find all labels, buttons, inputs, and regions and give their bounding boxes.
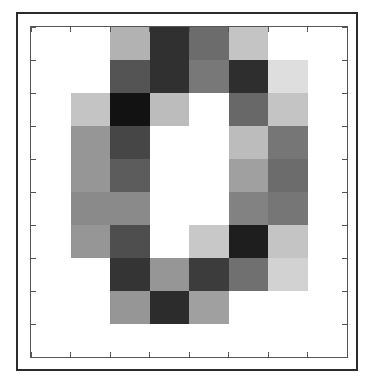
heatmap-cell	[110, 126, 150, 159]
heatmap-cell	[71, 291, 111, 324]
heatmap-cell	[150, 60, 190, 93]
heatmap-cell	[110, 225, 150, 258]
heatmap-cell	[189, 93, 229, 126]
heatmap-cell	[31, 159, 71, 192]
heatmap-cell	[110, 291, 150, 324]
heatmap-cell	[268, 324, 308, 357]
heatmap-cell	[268, 291, 308, 324]
heatmap-cell	[308, 27, 348, 60]
heatmap-cell	[150, 159, 190, 192]
heatmap-cell	[31, 258, 71, 291]
heatmap-cell	[189, 27, 229, 60]
heatmap-cell	[308, 126, 348, 159]
heatmap-cell	[31, 126, 71, 159]
heatmap-cell	[308, 192, 348, 225]
heatmap-cell	[308, 159, 348, 192]
heatmap-cell	[308, 93, 348, 126]
heatmap-cell	[229, 126, 269, 159]
heatmap-cell	[229, 324, 269, 357]
heatmap-cell	[268, 159, 308, 192]
heatmap-cell	[110, 60, 150, 93]
heatmap-cell	[71, 159, 111, 192]
heatmap-cell	[71, 324, 111, 357]
heatmap-cell	[150, 192, 190, 225]
heatmap-cell	[189, 60, 229, 93]
heatmap-cell	[150, 27, 190, 60]
heatmap-cell	[268, 258, 308, 291]
heatmap-cell	[268, 27, 308, 60]
heatmap-cell	[308, 258, 348, 291]
heatmap-cell	[31, 192, 71, 225]
heatmap-cell	[110, 27, 150, 60]
heatmap-cell	[189, 225, 229, 258]
heatmap-cell	[110, 258, 150, 291]
heatmap-cell	[31, 225, 71, 258]
heatmap-cell	[31, 27, 71, 60]
heatmap-cell	[31, 324, 71, 357]
heatmap-cell	[150, 93, 190, 126]
heatmap-cell	[150, 126, 190, 159]
heatmap-cell	[71, 126, 111, 159]
heatmap-cell	[189, 291, 229, 324]
heatmap-cell	[71, 60, 111, 93]
heatmap-cell	[189, 192, 229, 225]
heatmap-cell	[229, 27, 269, 60]
plot-axes-frame	[30, 26, 348, 358]
heatmap-cell	[268, 93, 308, 126]
heatmap-cell	[268, 60, 308, 93]
heatmap-cell	[268, 126, 308, 159]
heatmap-cell	[268, 192, 308, 225]
figure-outer-border	[16, 12, 358, 371]
heatmap-cell	[229, 192, 269, 225]
heatmap-cell	[308, 60, 348, 93]
heatmap-grid	[31, 27, 347, 357]
heatmap-cell	[31, 291, 71, 324]
heatmap-cell	[229, 258, 269, 291]
heatmap-cell	[150, 258, 190, 291]
heatmap-cell	[308, 324, 348, 357]
heatmap-cell	[189, 258, 229, 291]
heatmap-cell	[110, 93, 150, 126]
heatmap-cell	[110, 192, 150, 225]
heatmap-cell	[110, 324, 150, 357]
heatmap-cell	[229, 60, 269, 93]
heatmap-cell	[71, 258, 111, 291]
heatmap-cell	[229, 93, 269, 126]
heatmap-cell	[189, 126, 229, 159]
heatmap-cell	[71, 93, 111, 126]
heatmap-cell	[71, 27, 111, 60]
heatmap-cell	[71, 192, 111, 225]
heatmap-cell	[189, 324, 229, 357]
heatmap-cell	[150, 291, 190, 324]
heatmap-cell	[150, 324, 190, 357]
heatmap-cell	[71, 225, 111, 258]
heatmap-cell	[31, 60, 71, 93]
heatmap-cell	[308, 225, 348, 258]
heatmap-cell	[268, 225, 308, 258]
heatmap-cell	[189, 159, 229, 192]
heatmap-cell	[110, 159, 150, 192]
heatmap-cell	[150, 225, 190, 258]
heatmap-cell	[308, 291, 348, 324]
heatmap-cell	[229, 225, 269, 258]
heatmap-cell	[229, 291, 269, 324]
heatmap-cell	[31, 93, 71, 126]
heatmap-cell	[229, 159, 269, 192]
